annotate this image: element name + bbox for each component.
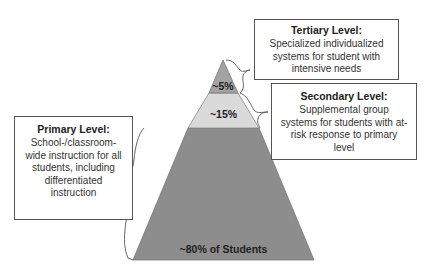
tier-label-primary: ~80% of Students <box>160 243 287 255</box>
secondary-level-box: Secondary Level: Supplemental group syst… <box>271 83 417 160</box>
tertiary-level-description: Specialized individualized systems for s… <box>255 38 398 76</box>
primary-level-description: School-/classroom-wide instruction for a… <box>15 137 132 200</box>
tier-label-secondary: ~15% <box>200 108 247 120</box>
tertiary-level-title: Tertiary Level: <box>255 23 398 37</box>
secondary-level-title: Secondary Level: <box>272 89 416 103</box>
tertiary-level-box: Tertiary Level: Specialized individualiz… <box>254 19 399 80</box>
secondary-level-description: Supplemental group systems for students … <box>272 104 416 154</box>
primary-level-title: Primary Level: <box>15 122 132 136</box>
primary-level-box: Primary Level: School-/classroom-wide in… <box>14 116 133 220</box>
tier-label-tertiary: ~5% <box>203 80 243 92</box>
